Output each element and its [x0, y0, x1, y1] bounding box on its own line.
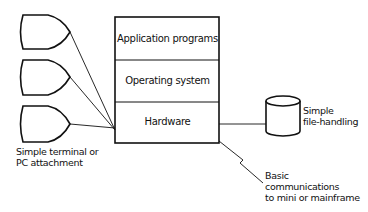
layer-application-programs: Application programs: [116, 33, 219, 44]
communications-label-line3: to mini or mainframe: [265, 192, 360, 203]
connection-line: [70, 77, 115, 130]
lightning-link-icon: [219, 141, 263, 183]
communications-label-line1: Basic: [265, 170, 360, 181]
layer-hardware: Hardware: [116, 116, 219, 127]
communications-label-line2: communications: [265, 181, 360, 192]
terminal-label-line2: PC attachment: [16, 157, 98, 168]
communications-label: Basic communications to mini or mainfram…: [265, 170, 360, 203]
terminal-label: Simple terminal or PC attachment: [16, 146, 98, 168]
storage-label-line1: Simple: [303, 105, 358, 116]
terminal-icon: [21, 106, 71, 142]
terminal-icon: [21, 60, 71, 95]
database-cylinder-icon: [266, 96, 300, 136]
connection-line: [70, 32, 115, 130]
layer-operating-system: Operating system: [116, 75, 219, 86]
storage-label-line2: file-handling: [303, 116, 358, 127]
terminal-icon: [21, 15, 71, 49]
storage-label: Simple file-handling: [303, 105, 358, 127]
connection-line: [70, 124, 115, 128]
terminal-label-line1: Simple terminal or: [16, 146, 98, 157]
